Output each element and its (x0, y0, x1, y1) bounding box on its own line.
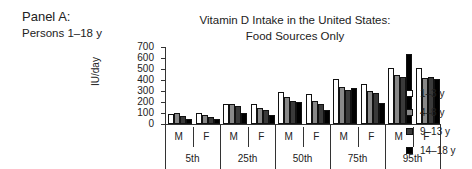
legend-swatch-icon (406, 109, 413, 116)
table-divider (248, 127, 249, 147)
percentile-label: 25th (220, 149, 275, 169)
category-table: MFMFMFMFMF5th25th50th75th95th (165, 124, 440, 169)
legend-label: 9–13 y (420, 126, 450, 137)
sex-label: M (330, 124, 358, 149)
bar (296, 102, 302, 124)
legend-item: 1–3 y (406, 88, 444, 99)
table-divider (303, 127, 304, 147)
legend-swatch-icon (406, 128, 413, 135)
table-divider (165, 124, 166, 169)
table-divider (330, 124, 331, 169)
panel-subtitle: Persons 1–18 y (22, 27, 102, 39)
chart-title-line-1: Vitamin D Intake in the United States: (170, 12, 420, 28)
bar (324, 110, 330, 124)
legend-swatch-icon (406, 147, 413, 154)
y-tick-mark (161, 47, 165, 48)
y-tick-mark (161, 69, 165, 70)
y-tick-mark (161, 58, 165, 59)
bar (241, 113, 247, 124)
y-tick-mark (161, 124, 165, 125)
sex-label: F (193, 124, 221, 149)
chart-title-line-2: Food Sources Only (170, 28, 420, 44)
y-tick-mark (161, 80, 165, 81)
bar (379, 103, 385, 124)
table-divider (358, 127, 359, 147)
y-tick-label: 300 (120, 86, 154, 96)
sex-label: M (165, 124, 193, 149)
sex-label: M (275, 124, 303, 149)
percentile-label: 75th (330, 149, 385, 169)
y-tick-label: 400 (120, 75, 154, 85)
percentile-label: 50th (275, 149, 330, 169)
legend-item: 9–13 y (406, 126, 450, 137)
legend-swatch-icon (406, 90, 413, 97)
legend-label: 1–3 y (420, 88, 444, 99)
legend-item: 14–18 y (406, 145, 456, 156)
legend-label: 4–8 y (420, 107, 444, 118)
y-tick-label: 700 (120, 42, 154, 52)
sex-label: F (248, 124, 276, 149)
y-tick-label: 0 (120, 119, 154, 129)
y-tick-label: 500 (120, 64, 154, 74)
sex-label: M (220, 124, 248, 149)
y-tick-label: 100 (120, 108, 154, 118)
y-tick-mark (161, 91, 165, 92)
table-divider (220, 124, 221, 169)
panel-title: Panel A: (22, 9, 70, 24)
percentile-label: 5th (165, 149, 220, 169)
y-tick-label: 600 (120, 53, 154, 63)
y-tick-mark (161, 113, 165, 114)
bar (269, 115, 275, 124)
legend-item: 4–8 y (406, 107, 444, 118)
bar (351, 88, 357, 124)
y-axis-label: IU/day (90, 57, 101, 86)
legend-label: 14–18 y (420, 145, 456, 156)
table-divider (275, 124, 276, 169)
plot-area (166, 47, 446, 124)
sex-label: F (303, 124, 331, 149)
y-tick-mark (161, 102, 165, 103)
table-divider (193, 127, 194, 147)
y-tick-label: 200 (120, 97, 154, 107)
table-divider (385, 124, 386, 169)
chart-title: Vitamin D Intake in the United States: F… (170, 12, 420, 44)
sex-label: F (358, 124, 386, 149)
